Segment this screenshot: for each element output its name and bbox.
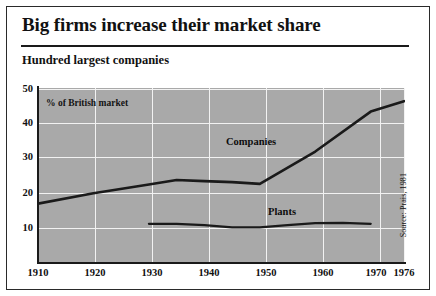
y-tick-30: 30 [3, 152, 33, 162]
plot-area [38, 88, 405, 262]
y-axis-ticks: 50 40 30 20 10 [0, 0, 33, 296]
source-note: Source: Prais, 1981 [399, 173, 408, 237]
series-label-plants: Plants [268, 206, 296, 217]
y-tick-10: 10 [3, 223, 33, 233]
x-tick-1976: 1976 [394, 267, 415, 278]
y-axis-line [37, 86, 39, 264]
y-tick-50: 50 [3, 84, 33, 94]
chart-subtitle: Hundred largest companies [22, 53, 169, 68]
y-tick-20: 20 [3, 188, 33, 198]
x-tick-1960: 1960 [313, 267, 334, 278]
x-tick-1930: 1930 [142, 267, 163, 278]
x-tick-1950: 1950 [256, 267, 277, 278]
x-tick-1920: 1920 [85, 267, 106, 278]
axis-note: % of British market [46, 98, 128, 108]
series-line-companies [38, 101, 404, 204]
title-divider [21, 45, 409, 47]
x-axis-line [37, 262, 406, 264]
x-tick-1910: 1910 [28, 267, 49, 278]
chart-figure: Big firms increase their market share Hu… [0, 0, 436, 296]
page-title: Big firms increase their market share [22, 14, 321, 36]
series-line-plants [149, 223, 371, 228]
series-label-companies: Companies [226, 136, 276, 147]
y-tick-40: 40 [3, 118, 33, 128]
x-tick-1940: 1940 [199, 267, 220, 278]
data-lines [38, 88, 405, 262]
x-tick-1970: 1970 [366, 267, 387, 278]
